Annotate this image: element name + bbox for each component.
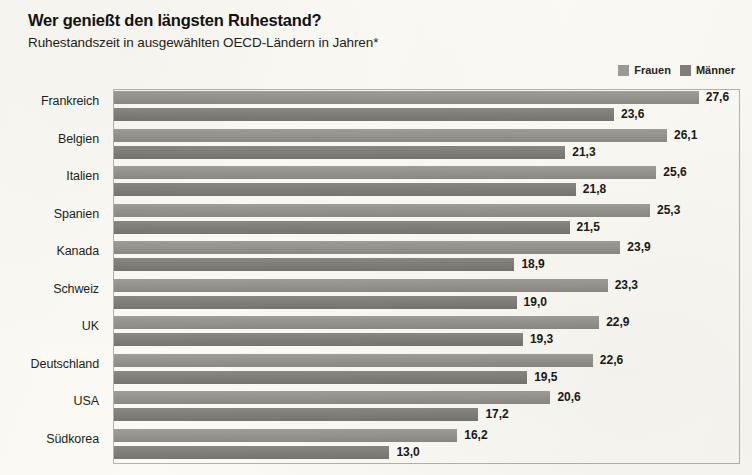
bar-group-kanada: 23,918,9 [113,239,740,277]
category-label-row: Spanien [0,202,107,240]
bar-value-maenner-italien: 21,8 [583,183,606,196]
category-label-row: Kanada [0,239,107,277]
bar-line-frauen: 27,6 [114,91,729,104]
bar-line-maenner: 23,6 [114,108,644,121]
legend-swatch-frauen-icon [618,65,629,76]
bar-value-frauen-frankreich: 27,6 [706,91,729,104]
bar-value-maenner-südkorea: 13,0 [396,446,419,459]
bar-line-maenner: 19,0 [114,296,547,309]
legend-swatch-maenner-icon [680,65,691,76]
bar-value-maenner-deutschland: 19,5 [534,371,557,384]
bar-maenner-spanien [114,221,570,234]
bar-frauen-uk [114,316,599,329]
category-label-row: Deutschland [0,352,107,390]
bar-line-frauen: 22,9 [114,316,630,329]
bar-line-frauen: 25,3 [114,204,680,217]
category-label-belgien: Belgien [58,132,99,146]
category-label-südkorea: Südkorea [46,432,99,446]
bar-group-spanien: 25,321,5 [113,202,740,240]
category-label-row: USA [0,389,107,427]
bar-line-frauen: 16,2 [114,429,488,442]
category-label-uk: UK [82,319,99,333]
bar-value-frauen-kanada: 23,9 [627,241,650,254]
bar-value-frauen-italien: 25,6 [663,166,686,179]
bar-line-maenner: 21,8 [114,183,606,196]
chart-header: Wer genießt den längsten Ruhestand? Ruhe… [28,10,548,51]
bar-maenner-frankreich [114,108,614,121]
category-label-frankreich: Frankreich [41,94,99,108]
bar-frauen-usa [114,391,550,404]
bar-value-frauen-usa: 20,6 [557,391,580,404]
bar-frauen-spanien [114,204,650,217]
bar-maenner-belgien [114,146,565,159]
chart-title: Wer genießt den längsten Ruhestand? [28,10,548,30]
bar-group-uk: 22,919,3 [113,314,740,352]
category-label-spanien: Spanien [54,207,99,221]
bar-value-maenner-frankreich: 23,6 [621,108,644,121]
bar-group-usa: 20,617,2 [113,389,740,427]
category-label-row: Schweiz [0,277,107,315]
bar-value-frauen-südkorea: 16,2 [464,429,487,442]
legend-label-frauen: Frauen [634,64,671,76]
bar-value-frauen-schweiz: 23,3 [615,279,638,292]
category-label-row: Italien [0,164,107,202]
bar-maenner-italien [114,183,576,196]
bar-group-italien: 25,621,8 [113,164,740,202]
bar-value-frauen-uk: 22,9 [606,316,629,329]
bar-line-maenner: 21,5 [114,221,600,234]
bar-line-frauen: 25,6 [114,166,687,179]
bar-line-maenner: 17,2 [114,408,509,421]
bar-group-südkorea: 16,213,0 [113,427,740,465]
bar-line-maenner: 19,5 [114,371,557,384]
legend-label-maenner: Männer [696,64,735,76]
bar-frauen-belgien [114,129,667,142]
bar-line-frauen: 22,6 [114,354,623,367]
legend-item-maenner: Männer [680,64,735,76]
bar-value-maenner-usa: 17,2 [485,408,508,421]
bar-value-maenner-kanada: 18,9 [521,258,544,271]
category-label-row: Südkorea [0,427,107,465]
bar-value-frauen-deutschland: 22,6 [600,354,623,367]
category-label-usa: USA [74,394,99,408]
bar-frauen-italien [114,166,656,179]
legend-item-frauen: Frauen [618,64,671,76]
bar-frauen-kanada [114,241,620,254]
chart-subtitle: Ruhestandszeit in ausgewählten OECD-Länd… [28,34,548,51]
bar-line-maenner: 19,3 [114,333,553,346]
bar-value-maenner-spanien: 21,5 [577,221,600,234]
bar-maenner-kanada [114,258,514,271]
bar-line-frauen: 26,1 [114,129,697,142]
bar-value-frauen-spanien: 25,3 [657,204,680,217]
category-label-schweiz: Schweiz [53,282,99,296]
category-axis-labels: FrankreichBelgienItalienSpanienKanadaSch… [0,89,107,464]
bar-group-deutschland: 22,619,5 [113,352,740,390]
bar-value-frauen-belgien: 26,1 [674,129,697,142]
category-label-row: Belgien [0,127,107,165]
bar-value-maenner-schweiz: 19,0 [524,296,547,309]
bar-value-maenner-belgien: 21,3 [572,146,595,159]
bar-line-maenner: 13,0 [114,446,420,459]
bar-frauen-frankreich [114,91,699,104]
bar-rows-container: 27,623,626,121,325,621,825,321,523,918,9… [113,89,740,464]
bar-line-frauen: 23,9 [114,241,651,254]
bar-frauen-schweiz [114,279,608,292]
bar-group-frankreich: 27,623,6 [113,89,740,127]
bar-value-maenner-uk: 19,3 [530,333,553,346]
category-label-row: Frankreich [0,89,107,127]
bar-group-belgien: 26,121,3 [113,127,740,165]
bar-line-maenner: 18,9 [114,258,545,271]
bar-frauen-deutschland [114,354,593,367]
bar-maenner-schweiz [114,296,517,309]
bar-line-frauen: 20,6 [114,391,581,404]
category-label-kanada: Kanada [57,244,100,258]
category-label-row: UK [0,314,107,352]
chart-legend: Frauen Männer [618,64,735,76]
bar-frauen-südkorea [114,429,457,442]
bar-line-frauen: 23,3 [114,279,638,292]
bar-maenner-deutschland [114,371,527,384]
category-label-italien: Italien [66,169,99,183]
bar-maenner-usa [114,408,478,421]
bar-line-maenner: 21,3 [114,146,596,159]
bar-maenner-südkorea [114,446,389,459]
bar-maenner-uk [114,333,523,346]
